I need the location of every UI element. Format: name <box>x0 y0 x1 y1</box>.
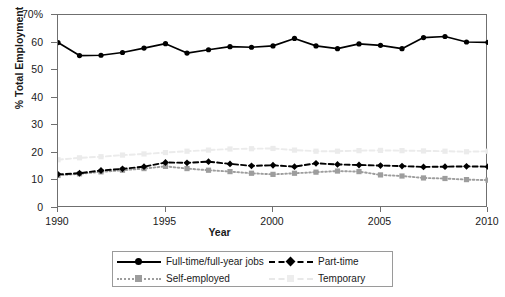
x-tick-label: 2010 <box>475 216 498 227</box>
series-point <box>464 149 469 154</box>
series-point <box>270 43 275 48</box>
series-point <box>270 162 277 169</box>
series-point <box>378 172 383 177</box>
series-point <box>120 152 125 157</box>
series-point <box>292 171 297 176</box>
series-point <box>442 163 449 170</box>
series-point <box>205 158 212 165</box>
legend-label-self-employed: Self-employed <box>166 274 230 284</box>
series-point <box>120 50 125 55</box>
series-point <box>421 148 426 153</box>
series-point <box>356 162 363 169</box>
series-point <box>184 149 189 154</box>
x-axis-title-label: Year <box>208 226 230 238</box>
legend-key-full-time <box>117 256 161 267</box>
x-tick-mark <box>165 207 166 212</box>
series-point <box>292 36 297 41</box>
legend-label-full-time: Full-time/full-year jobs <box>166 257 264 267</box>
series-point <box>77 53 82 58</box>
series-point <box>163 150 168 155</box>
series-point <box>421 175 426 180</box>
y-tick-label: 50 <box>31 64 43 75</box>
series-point <box>206 148 211 153</box>
y-tick-label: 30 <box>31 119 43 130</box>
series-full-time-full-year-jobs <box>58 34 488 58</box>
series-point <box>227 146 232 151</box>
x-tick-mark <box>487 207 488 212</box>
series-point <box>335 149 340 154</box>
series-point <box>227 160 234 167</box>
series-point <box>356 169 361 174</box>
y-tick-label: 20 <box>31 147 43 158</box>
x-tick-label: 2005 <box>368 216 391 227</box>
series-point <box>270 172 275 177</box>
series-point <box>464 39 469 44</box>
series-point <box>184 50 189 55</box>
chart-figure: % Total Employment 010203040506070% 1990… <box>0 0 505 297</box>
series-point <box>184 159 191 166</box>
series-point <box>421 35 426 40</box>
legend-item-temporary[interactable]: Temporary <box>269 273 398 284</box>
legend-item-self-employed[interactable]: Self-employed <box>117 273 269 284</box>
legend-key-part-time <box>269 256 313 267</box>
x-tick-label: 1990 <box>45 216 68 227</box>
legend-label-temporary: Temporary <box>318 274 365 284</box>
series-point <box>399 148 404 153</box>
y-tick-label: 40 <box>31 91 43 102</box>
legend-key-self-employed <box>117 273 161 284</box>
series-point <box>335 168 340 173</box>
series-point <box>141 151 146 156</box>
series-point <box>356 148 361 153</box>
series-point <box>442 176 447 181</box>
series-point <box>399 173 404 178</box>
series-point <box>356 41 361 46</box>
series-point <box>463 163 470 170</box>
x-tick-mark <box>57 207 58 212</box>
series-point <box>227 169 232 174</box>
legend-item-full-time[interactable]: Full-time/full-year jobs <box>117 256 269 267</box>
series-point <box>334 161 341 168</box>
series-point <box>184 166 189 171</box>
plot-area <box>57 14 487 207</box>
series-point <box>378 43 383 48</box>
series-point <box>442 149 447 154</box>
series-point <box>464 177 469 182</box>
series-point <box>399 163 406 170</box>
series-point <box>292 148 297 153</box>
series-point <box>98 154 103 159</box>
legend-marker-faint-square-icon <box>287 275 294 282</box>
series-point <box>485 178 488 183</box>
y-tick-label: 10 <box>31 174 43 185</box>
series-point <box>249 45 254 50</box>
series-layer <box>58 15 488 208</box>
x-tick-mark <box>380 207 381 212</box>
legend-item-part-time[interactable]: Part-time <box>269 256 398 267</box>
legend-label-part-time: Part-time <box>318 257 359 267</box>
series-point <box>77 155 82 160</box>
y-axis-ticks: 010203040506070% <box>0 0 53 221</box>
x-axis-title: Year <box>0 226 505 238</box>
series-point <box>163 41 168 46</box>
series-point <box>485 149 488 154</box>
series-point <box>249 146 254 151</box>
chart-legend: Full-time/full-year jobs Part-time Self-… <box>112 251 393 287</box>
series-point <box>378 148 383 153</box>
y-tick-label: 60 <box>31 36 43 47</box>
x-tick-label: 1995 <box>153 216 176 227</box>
series-point <box>399 46 404 51</box>
series-point <box>98 53 103 58</box>
series-point <box>206 47 211 52</box>
series-point <box>313 170 318 175</box>
series-point <box>485 163 488 170</box>
series-point <box>377 162 384 169</box>
legend-marker-circle-icon <box>135 258 142 265</box>
series-point <box>313 160 320 167</box>
series-point <box>485 40 488 45</box>
series-point <box>141 45 146 50</box>
x-tick-mark <box>272 207 273 212</box>
series-point <box>270 146 275 151</box>
y-tick-label: 70% <box>22 9 43 20</box>
series-point <box>420 164 427 171</box>
series-point <box>335 46 340 51</box>
series-point <box>291 163 298 170</box>
